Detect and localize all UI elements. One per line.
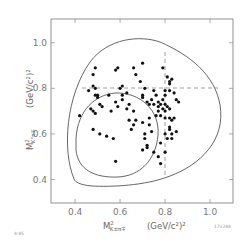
data-point: [168, 126, 171, 129]
data-point: [94, 66, 97, 69]
data-point: [150, 98, 153, 101]
data-point: [161, 66, 164, 69]
data-point: [157, 105, 160, 108]
data-point: [112, 137, 115, 140]
x-axis-title: M2K±π∓ (GeV/c²)²: [103, 220, 186, 232]
data-point: [87, 89, 90, 92]
data-point: [161, 98, 164, 101]
data-point: [170, 132, 173, 135]
data-point: [157, 155, 160, 158]
data-point: [141, 62, 144, 65]
data-point: [152, 151, 155, 154]
svg-text:(GeV/c²)²: (GeV/c²)²: [25, 69, 35, 108]
data-point: [121, 84, 124, 87]
data-point: [168, 89, 171, 92]
dalitz-scatter-plot: 0.40.60.81.00.40.60.81.0 M2K°π∓ (GeV/c²)…: [0, 0, 248, 252]
data-point: [98, 103, 101, 106]
data-point: [164, 94, 167, 97]
data-point: [134, 73, 137, 76]
data-point: [157, 110, 160, 113]
data-point: [125, 107, 128, 110]
axis-tick-labels: 0.40.60.81.00.40.60.81.0: [33, 38, 218, 217]
data-point: [155, 114, 158, 117]
data-point: [101, 105, 104, 108]
data-point: [130, 128, 133, 131]
data-point: [89, 107, 92, 110]
data-point: [152, 89, 155, 92]
data-point: [173, 91, 176, 94]
figure-code-left: 4-85: [14, 231, 24, 236]
x-tick-label: 0.4: [68, 207, 83, 217]
data-point: [159, 103, 162, 106]
data-point: [128, 119, 131, 122]
data-point: [132, 110, 135, 113]
data-point: [92, 73, 95, 76]
data-point: [114, 160, 117, 163]
data-point: [166, 75, 169, 78]
data-point: [148, 123, 151, 126]
data-point: [164, 116, 167, 119]
data-point: [168, 82, 171, 85]
plot-frame: [51, 19, 233, 203]
data-point: [107, 94, 110, 97]
data-point: [78, 114, 81, 117]
data-point: [173, 116, 176, 119]
data-point: [170, 78, 173, 81]
data-point: [92, 128, 95, 131]
data-point: [175, 130, 178, 133]
svg-text:M2K°π∓: M2K°π∓: [24, 128, 36, 150]
data-point: [150, 130, 153, 133]
data-points: [78, 62, 180, 166]
data-point: [159, 114, 162, 117]
data-point: [110, 110, 113, 113]
data-point: [168, 107, 171, 110]
data-point: [175, 98, 178, 101]
data-point: [143, 137, 146, 140]
data-point: [141, 148, 144, 151]
data-point: [177, 100, 180, 103]
data-point: [155, 94, 158, 97]
data-point: [146, 146, 149, 149]
y-tick-label: 1.0: [33, 38, 48, 48]
x-tick-label: 0.8: [158, 207, 173, 217]
data-point: [132, 66, 135, 69]
data-point: [164, 151, 167, 154]
data-point: [139, 80, 142, 83]
y-tick-label: 0.4: [33, 175, 48, 185]
data-point: [98, 132, 101, 135]
data-point: [114, 100, 117, 103]
data-point: [159, 141, 162, 144]
data-point: [116, 105, 119, 108]
data-point: [105, 135, 108, 138]
data-point: [143, 132, 146, 135]
data-point: [161, 107, 164, 110]
data-point: [121, 94, 124, 97]
data-point: [134, 119, 137, 122]
data-point: [164, 89, 167, 92]
data-point: [94, 112, 97, 115]
data-point: [166, 137, 169, 140]
data-point: [164, 110, 167, 113]
data-point: [148, 103, 151, 106]
figure-code-right: 17x244: [214, 224, 231, 229]
data-point: [170, 137, 173, 140]
data-point: [152, 103, 155, 106]
x-tick-label: 1.0: [203, 207, 218, 217]
data-point: [148, 116, 151, 119]
data-point: [143, 87, 146, 90]
data-point: [121, 98, 124, 101]
data-point: [96, 96, 99, 99]
data-point: [94, 87, 97, 90]
data-point: [141, 96, 144, 99]
x-tick-label: 0.6: [113, 207, 128, 217]
data-point: [125, 91, 128, 94]
svg-text:(GeV/c²)²: (GeV/c²)²: [147, 221, 186, 231]
svg-text:M2K±π∓: M2K±π∓: [103, 220, 126, 232]
data-point: [164, 132, 167, 135]
y-axis-title: M2K°π∓ (GeV/c²)²: [24, 69, 36, 150]
data-point: [157, 100, 160, 103]
axis-ticks: [51, 19, 233, 203]
data-point: [128, 103, 131, 106]
outer-kinematic-boundary: [67, 39, 220, 187]
data-point: [141, 121, 144, 124]
